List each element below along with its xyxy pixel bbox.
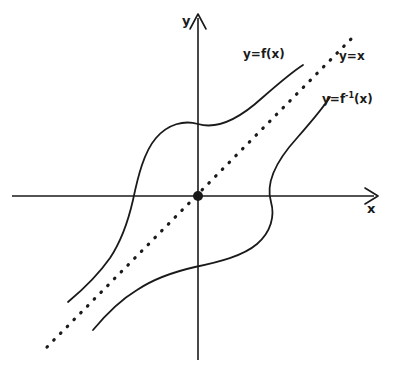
figure-canvas: y x y=f(x) y=x y=f-1(x): [0, 0, 393, 377]
x-axis-label: x: [367, 202, 375, 215]
label-y-equals-f-of-x: y=f(x): [243, 48, 285, 60]
label-f-inverse-prefix: y=f: [322, 92, 345, 106]
label-y-equals-x: y=x: [339, 50, 365, 62]
label-y-equals-f-inverse-of-x: y=f-1(x): [322, 93, 373, 105]
origin-point: [193, 191, 203, 201]
y-axis-label: y: [182, 14, 190, 27]
label-f-inverse-suffix: (x): [354, 92, 373, 106]
graph-svg: [0, 0, 393, 377]
curve-f-inverse-of-x: [93, 97, 330, 330]
y-axis: [190, 14, 206, 360]
label-f-inverse-exponent: -1: [345, 91, 354, 100]
curve-f-of-x: [68, 65, 303, 302]
